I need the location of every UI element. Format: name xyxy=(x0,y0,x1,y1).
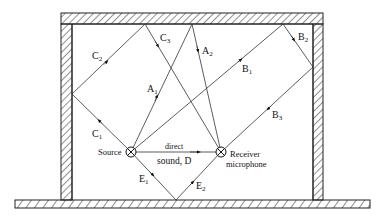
source-label: Source xyxy=(98,147,122,157)
ray-label-a2: A2 xyxy=(202,45,213,58)
receiver-symbol xyxy=(216,147,226,157)
ray-label-b2: B2 xyxy=(298,31,309,44)
ray-label-e2: E2 xyxy=(196,180,206,193)
ray-b xyxy=(131,24,313,152)
microphone-label: microphone xyxy=(226,159,267,169)
ray-label-b3: B3 xyxy=(272,109,283,122)
room-walls xyxy=(15,13,370,208)
ray-label-c3: C3 xyxy=(160,32,171,45)
ray-label-c1: C1 xyxy=(92,128,103,141)
source-symbol xyxy=(126,147,136,157)
ray-label-c2: C2 xyxy=(92,50,103,63)
receiver-label: Receiver xyxy=(230,149,260,159)
sound-d-label: sound, D xyxy=(157,156,191,166)
floor xyxy=(15,200,370,208)
ray-label-a1: A1 xyxy=(147,83,158,96)
ray-label-b1: B1 xyxy=(242,63,253,76)
ray-label-e1: E1 xyxy=(139,173,149,186)
room-acoustics-diagram: Source Receiver microphone direct sound,… xyxy=(0,0,380,220)
direct-label: direct xyxy=(165,142,184,151)
